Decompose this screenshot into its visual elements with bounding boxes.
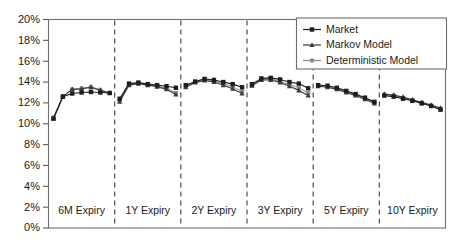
y-axis-tick-label: 0% bbox=[24, 221, 40, 233]
data-point-square bbox=[221, 80, 225, 84]
data-point-square bbox=[164, 84, 168, 88]
y-axis-tick-label: 10% bbox=[18, 117, 40, 129]
data-point-square bbox=[410, 99, 414, 103]
legend-label-market: Market bbox=[326, 23, 358, 35]
data-point-square bbox=[70, 91, 74, 95]
data-point-square bbox=[89, 90, 93, 94]
legend-label-markov-model: Markov Model bbox=[326, 38, 392, 50]
data-point-square bbox=[429, 104, 433, 108]
data-point-square bbox=[202, 77, 206, 81]
data-point-square bbox=[353, 92, 357, 96]
data-point-square bbox=[193, 79, 197, 83]
volatility-chart: 0%2%4%6%8%10%12%14%16%18%20% 6M Expiry1Y… bbox=[0, 0, 459, 252]
data-point-square bbox=[146, 82, 150, 86]
data-point-square bbox=[174, 86, 178, 90]
data-point-square bbox=[325, 83, 329, 87]
data-point-square bbox=[438, 107, 442, 111]
data-point-square bbox=[136, 80, 140, 84]
data-point-square bbox=[306, 86, 310, 90]
data-point-square bbox=[335, 86, 339, 90]
panel-label-2y-expiry: 2Y Expiry bbox=[192, 204, 237, 216]
data-point-square bbox=[230, 82, 234, 86]
chart-legend: MarketMarkov ModelDeterministic Model bbox=[297, 18, 447, 69]
data-point-square bbox=[117, 97, 121, 101]
data-point-square bbox=[382, 93, 386, 97]
data-point-square bbox=[51, 116, 55, 120]
data-point-square bbox=[61, 94, 65, 98]
data-point-square bbox=[259, 76, 263, 80]
data-point-square bbox=[155, 83, 159, 87]
y-axis-tick-label: 2% bbox=[24, 201, 40, 213]
legend-label-deterministic-model: Deterministic Model bbox=[326, 54, 418, 66]
data-point-square bbox=[391, 94, 395, 98]
panel-label-3y-expiry: 3Y Expiry bbox=[258, 204, 303, 216]
panel-label-1y-expiry: 1Y Expiry bbox=[125, 204, 170, 216]
y-axis-tick-label: 14% bbox=[18, 75, 40, 87]
y-axis-tick-label: 16% bbox=[18, 55, 40, 67]
data-point-square bbox=[108, 91, 112, 95]
y-axis-tick-label: 20% bbox=[18, 13, 40, 25]
data-point-square bbox=[287, 80, 291, 84]
data-point-square bbox=[127, 81, 131, 85]
panel-label-5y-expiry: 5Y Expiry bbox=[324, 204, 369, 216]
data-point-square bbox=[316, 83, 320, 87]
data-point-square bbox=[401, 97, 405, 101]
data-point-square bbox=[79, 90, 83, 94]
data-point-square bbox=[363, 95, 367, 99]
chart-canvas: 0%2%4%6%8%10%12%14%16%18%20% 6M Expiry1Y… bbox=[0, 0, 459, 252]
data-point-square bbox=[240, 85, 244, 89]
data-point-circle bbox=[310, 58, 315, 63]
data-point-square bbox=[372, 100, 376, 104]
y-axis-tick-label: 6% bbox=[24, 159, 40, 171]
data-point-square bbox=[297, 81, 301, 85]
data-point-square bbox=[310, 27, 314, 31]
data-point-square bbox=[250, 82, 254, 86]
y-axis-tick-label: 4% bbox=[24, 180, 40, 192]
y-axis-tick-label: 12% bbox=[18, 96, 40, 108]
data-point-square bbox=[98, 90, 102, 94]
data-point-square bbox=[278, 77, 282, 81]
data-point-square bbox=[269, 76, 273, 80]
data-point-square bbox=[344, 89, 348, 93]
panel-label-10y-expiry: 10Y Expiry bbox=[387, 204, 438, 216]
panel-label-6m-expiry: 6M Expiry bbox=[58, 204, 105, 216]
data-point-square bbox=[184, 83, 188, 87]
y-axis-tick-label: 18% bbox=[18, 34, 40, 46]
y-axis-tick-label: 8% bbox=[24, 138, 40, 150]
data-point-square bbox=[420, 101, 424, 105]
data-point-square bbox=[212, 78, 216, 82]
